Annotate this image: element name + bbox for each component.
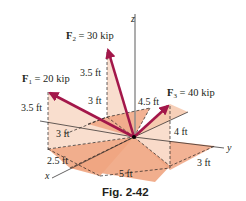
dim-f3-x: 3 ft [197,157,211,168]
f1-label: F1 = 20 kip [22,73,70,86]
dim-f2-height: 3.5 ft [80,67,101,78]
force-diagram: z y x F2 = 30 kip F1 = 20 kip F3 = 40 ki… [0,0,246,201]
dim-bottom-span: 5 ft [119,168,133,179]
x-axis-label: x [44,170,50,181]
f2-label: F2 = 30 kip [66,30,114,43]
origin-point [132,135,136,139]
f3-label: F3 = 40 kip [167,87,215,100]
dim-f3-offset: 4.5 ft [138,96,159,107]
shaded-planes [48,48,215,182]
y-axis-label: y [226,142,232,153]
z-axis-label: z [130,13,135,24]
dim-f1-height: 3.5 ft [21,102,42,113]
dim-f2-offset: 3 ft [88,95,102,106]
dim-f1-offset: 3 ft [56,128,70,139]
dim-f1-x: 2.5 ft [47,155,68,166]
dim-f3-height: 4 ft [174,126,188,137]
figure-caption: Fig. 2-42 [102,186,149,198]
